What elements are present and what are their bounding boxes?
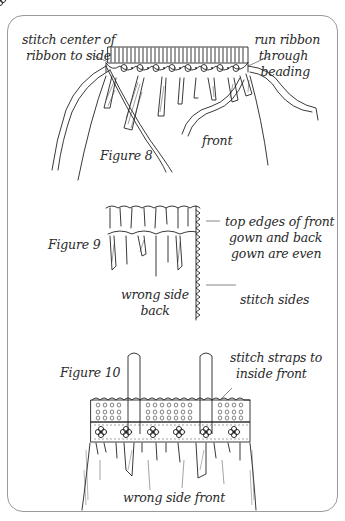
label-stitch-center-line1: stitch center of bbox=[22, 32, 115, 47]
label-run-ribbon-line3: beading bbox=[250, 64, 310, 79]
label-wrong-side-back-line1: wrong side bbox=[120, 287, 190, 302]
figure-8-caption: Figure 8 bbox=[100, 148, 152, 163]
label-wrong-side-front: wrong side front bbox=[123, 490, 225, 505]
label-stitch-sides: stitch sides bbox=[240, 292, 309, 307]
label-top-edges-line2: gown and back bbox=[229, 230, 322, 245]
figure-10-caption: Figure 10 bbox=[60, 365, 120, 380]
label-stitch-straps-line1: stitch straps to bbox=[230, 350, 322, 365]
figure-9-caption: Figure 9 bbox=[48, 237, 100, 252]
label-top-edges-line1: top edges of front bbox=[225, 214, 334, 229]
label-front: front bbox=[202, 133, 232, 148]
label-stitch-straps-line2: inside front bbox=[236, 366, 307, 381]
label-top-edges-line3: gown are even bbox=[231, 246, 321, 261]
label-run-ribbon-line1: run ribbon bbox=[250, 32, 320, 47]
label-wrong-side-back-line2: back bbox=[120, 303, 190, 318]
label-run-ribbon-line2: through bbox=[250, 48, 308, 63]
figure-10-drawing bbox=[0, 0, 256, 510]
label-stitch-center-line2: ribbon to side bbox=[26, 48, 111, 63]
